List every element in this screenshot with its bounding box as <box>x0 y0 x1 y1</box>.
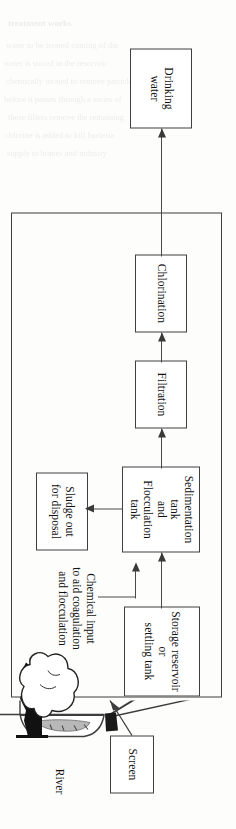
box-filtration: Filtration <box>135 360 187 428</box>
tree-foliage <box>20 652 79 716</box>
arrowhead-chemical-input <box>132 562 140 571</box>
box-sludge-label: Sludge outfor disposal <box>48 480 75 541</box>
tree-illustration <box>0 640 86 750</box>
box-sludge-out-for-disposal: Sludge outfor disposal <box>36 472 88 550</box>
arrowhead-into-filtration <box>158 428 166 437</box>
diagram-canvas: Drinkingwater Chlorination Filtration Se… <box>0 0 236 829</box>
box-storage-label: Storage reservoirorsettling tank <box>142 608 183 695</box>
arrowhead-into-drinking-water <box>158 128 166 137</box>
box-drinking-water: Drinkingwater <box>130 48 192 128</box>
box-drinking-water-label: Drinkingwater <box>147 64 174 112</box>
chemical-input-riser <box>98 596 136 597</box>
box-filtration-label: Filtration <box>154 369 168 419</box>
flow-line-chlorination-to-drinking-water <box>161 128 162 256</box>
arrowhead-into-sludge <box>85 504 94 512</box>
screen-element <box>105 712 118 731</box>
arrowhead-into-chlorination <box>158 332 166 341</box>
box-sedimentation-flocculation-tank: Sedimentation tankandFlocculation tank <box>122 466 200 552</box>
box-storage-reservoir: Storage reservoirorsettling tank <box>124 606 200 696</box>
box-chlorination: Chlorination <box>135 254 187 332</box>
box-sedimentation-label: Sedimentation tankandFlocculation tank <box>127 467 195 551</box>
box-chlorination-label: Chlorination <box>154 260 168 325</box>
arrowhead-into-sedimentation <box>158 552 166 561</box>
intake-pipe-upper <box>112 700 194 716</box>
